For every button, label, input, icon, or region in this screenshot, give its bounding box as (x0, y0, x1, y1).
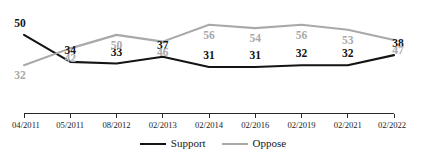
data-label-support-7: 32 (342, 49, 354, 61)
data-label-oppose-2: 50 (111, 40, 123, 52)
x-tick-label-2: 08/2012 (102, 121, 130, 130)
x-tick-label-8: 02/2022 (378, 121, 406, 130)
axis-marks (24, 114, 394, 118)
data-label-oppose-4: 56 (203, 30, 215, 42)
data-label-oppose-5: 54 (250, 33, 262, 45)
data-label-support-4: 31 (203, 50, 215, 62)
x-tick-label-4: 02/2014 (195, 121, 223, 130)
legend-swatch-support-icon (140, 143, 166, 145)
data-label-oppose-0: 32 (14, 71, 26, 83)
data-label-oppose-8: 47 (392, 45, 404, 57)
line-chart: 503433373131323238324250465654565347 04/… (0, 0, 426, 162)
x-tick-label-3: 02/2013 (149, 121, 177, 130)
legend-item-support[interactable]: Support (140, 138, 206, 149)
data-label-support-0: 50 (14, 18, 26, 30)
data-label-oppose-1: 42 (65, 54, 77, 66)
legend-label: Support (171, 138, 206, 149)
legend-item-oppose[interactable]: Oppose (222, 138, 287, 149)
data-label-oppose-3: 46 (157, 47, 169, 59)
x-tick-label-6: 02/2019 (287, 121, 315, 130)
plot-area: 503433373131323238324250465654565347 (0, 0, 426, 110)
x-tick-label-5: 02/2016 (241, 121, 269, 130)
data-label-support-5: 31 (250, 50, 262, 62)
chart-legend: SupportOppose (0, 138, 426, 149)
x-tick-label-0: 04/2011 (12, 121, 40, 130)
data-label-oppose-6: 56 (296, 30, 308, 42)
legend-label: Oppose (253, 138, 287, 149)
legend-swatch-oppose-icon (222, 143, 248, 145)
data-label-oppose-7: 53 (342, 35, 354, 47)
data-label-support-6: 32 (296, 49, 308, 61)
x-tick-label-7: 02/2021 (334, 121, 362, 130)
x-tick-label-1: 05/2011 (56, 121, 84, 130)
